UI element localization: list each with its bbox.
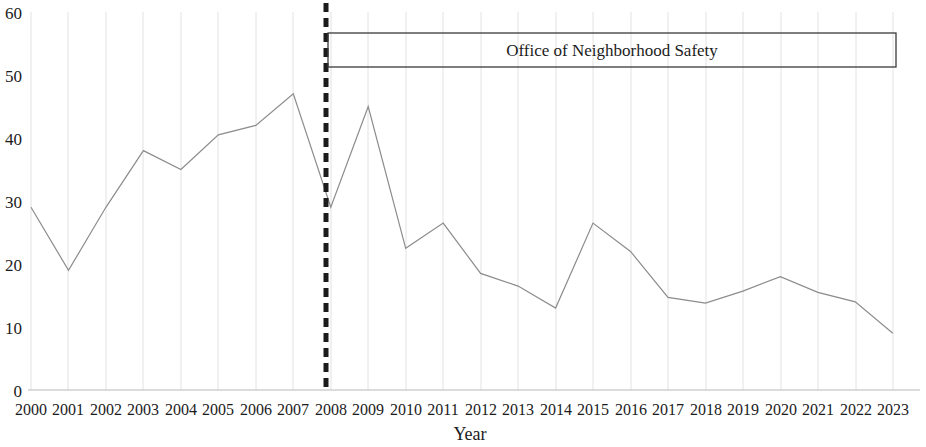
x-tick-2017: 2017 [652,401,684,418]
chart-canvas: Office of Neighborhood Safety 60 50 40 3… [0,0,926,447]
gridlines [31,12,893,390]
x-tick-2002: 2002 [90,401,122,418]
x-tick-2001: 2001 [52,401,84,418]
x-tick-2010: 2010 [390,401,422,418]
x-tick-2020: 2020 [765,401,797,418]
x-tick-2005: 2005 [202,401,234,418]
x-tick-2019: 2019 [727,401,759,418]
x-tick-2004: 2004 [165,401,197,418]
x-tick-2003: 2003 [127,401,159,418]
y-tick-40: 40 [5,130,22,149]
x-tick-2021: 2021 [802,401,834,418]
line-chart: Office of Neighborhood Safety 60 50 40 3… [0,0,926,447]
y-tick-10: 10 [5,319,22,338]
x-tick-2013: 2013 [502,401,534,418]
x-tick-2022: 2022 [840,401,872,418]
x-tick-2023: 2023 [877,401,909,418]
x-tick-2011: 2011 [427,401,458,418]
x-tick-2000: 2000 [15,401,47,418]
x-tick-2007: 2007 [277,401,309,418]
x-tick-2008: 2008 [315,401,347,418]
y-tick-30: 30 [5,193,22,212]
x-tick-2006: 2006 [240,401,272,418]
x-tick-2012: 2012 [465,401,497,418]
x-tick-2016: 2016 [615,401,647,418]
x-axis-title: Year [453,424,486,444]
x-tick-2014: 2014 [540,401,572,418]
y-tick-0: 0 [14,382,23,401]
annotation-label: Office of Neighborhood Safety [506,41,718,60]
x-tick-2015: 2015 [577,401,609,418]
x-tick-2018: 2018 [690,401,722,418]
data-line-homicides [31,94,893,333]
y-tick-20: 20 [5,256,22,275]
x-tick-2009: 2009 [352,401,384,418]
y-tick-60: 60 [5,4,22,23]
y-tick-50: 50 [5,67,22,86]
